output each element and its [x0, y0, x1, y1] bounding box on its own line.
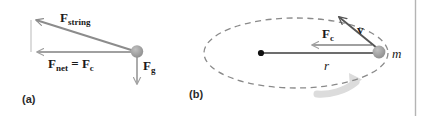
panel-label-a: (a): [22, 93, 36, 105]
mass-ball: [373, 46, 386, 59]
f-net-label: Fnet = Fc: [48, 56, 94, 73]
v-label: v: [357, 22, 364, 37]
f-g-label: Fg: [143, 58, 156, 75]
panel-b-group: Fc v r m (b): [189, 17, 401, 100]
panel-a-group: Fstring Fnet = Fc Fg (a): [22, 10, 156, 105]
rotation-direction-arrow: [317, 73, 362, 94]
mass-label: m: [392, 46, 401, 61]
radius-label: r: [324, 58, 330, 73]
f-string-label: Fstring: [60, 10, 91, 27]
f-c-label: Fc: [322, 26, 334, 43]
orbit-center-dot: [258, 50, 264, 56]
mass-bob: [131, 45, 143, 57]
physics-figure-circular-motion: Fstring Fnet = Fc Fg (a): [0, 0, 435, 121]
panel-label-b: (b): [189, 88, 203, 100]
figure-canvas: Fstring Fnet = Fc Fg (a): [0, 0, 435, 121]
